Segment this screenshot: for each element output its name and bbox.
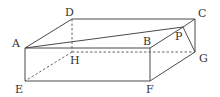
label-e: E [15, 83, 23, 96]
label-b: B [143, 35, 151, 48]
label-c: C [198, 7, 206, 20]
segment-a-p [25, 27, 183, 48]
solid-edges [25, 19, 195, 81]
segment-p-g [183, 27, 195, 52]
hidden-edge-h-e [25, 52, 72, 81]
edge-f-g [150, 52, 195, 81]
prism-diagram: A B C D E F G H P [0, 0, 220, 97]
label-g: G [199, 52, 208, 65]
segment-p-c [183, 19, 195, 27]
edge-a-d [25, 19, 72, 48]
label-d: D [65, 6, 74, 19]
label-h: H [70, 54, 80, 67]
label-f: F [146, 83, 154, 96]
label-p: P [175, 30, 183, 43]
label-a: A [11, 37, 21, 50]
